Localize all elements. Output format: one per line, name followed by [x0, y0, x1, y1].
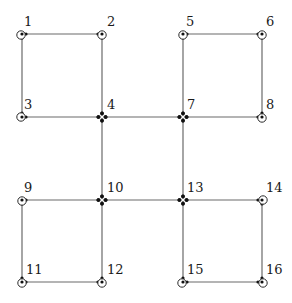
node-label-9: 9	[24, 180, 32, 195]
node-dot-icon	[260, 115, 263, 118]
junction-center-icon	[101, 116, 103, 118]
node-label-5: 5	[186, 14, 194, 29]
node-label-13: 13	[187, 180, 204, 195]
node-dot-icon	[20, 115, 23, 118]
junction-center-icon	[101, 199, 103, 201]
node-label-16: 16	[266, 262, 283, 277]
junction-marker-icon	[100, 119, 104, 123]
junction-marker-icon	[100, 202, 104, 206]
junction-marker-icon	[104, 115, 108, 119]
node-1[interactable]	[17, 31, 25, 39]
node-dot-icon	[260, 32, 263, 35]
node-5[interactable]	[179, 31, 187, 39]
node-label-3: 3	[24, 97, 32, 112]
junction-marker-icon	[100, 112, 104, 116]
node-dot-icon	[100, 32, 103, 35]
junction-marker-icon	[181, 195, 185, 199]
junction-center-icon	[182, 199, 184, 201]
node-label-1: 1	[24, 14, 32, 29]
node-label-10: 10	[107, 180, 124, 195]
edges-layer	[20, 32, 263, 283]
node-label-14: 14	[266, 180, 283, 195]
node-label-8: 8	[266, 97, 274, 112]
junction-marker-icon	[97, 198, 101, 202]
node-7[interactable]	[178, 112, 189, 123]
junction-marker-icon	[178, 115, 182, 119]
node-16[interactable]	[259, 279, 267, 287]
node-label-12: 12	[107, 262, 124, 277]
junction-marker-icon	[104, 198, 108, 202]
node-label-11: 11	[26, 262, 43, 277]
node-11[interactable]	[18, 279, 26, 287]
node-label-2: 2	[107, 14, 115, 29]
node-8[interactable]	[258, 114, 266, 122]
junction-marker-icon	[100, 195, 104, 199]
node-9[interactable]	[18, 197, 26, 205]
node-dot-icon	[20, 32, 23, 35]
node-6[interactable]	[258, 31, 266, 39]
labels-layer: 12345678910111213141516	[24, 14, 283, 277]
node-dot-icon	[260, 280, 263, 283]
node-14[interactable]	[259, 196, 267, 204]
junction-marker-icon	[181, 119, 185, 123]
node-label-15: 15	[187, 262, 204, 277]
node-13[interactable]	[178, 195, 189, 206]
nodes-layer	[17, 31, 267, 287]
node-dot-icon	[181, 280, 184, 283]
graph-diagram: 12345678910111213141516	[0, 0, 292, 303]
node-dot-icon	[20, 198, 23, 201]
node-4[interactable]	[97, 112, 108, 123]
node-12[interactable]	[98, 279, 106, 287]
junction-marker-icon	[185, 198, 189, 202]
junction-marker-icon	[181, 202, 185, 206]
junction-marker-icon	[97, 115, 101, 119]
node-label-6: 6	[266, 14, 274, 29]
node-3[interactable]	[17, 113, 25, 121]
junction-center-icon	[182, 116, 184, 118]
node-dot-icon	[260, 198, 263, 201]
node-dot-icon	[100, 280, 103, 283]
node-dot-icon	[20, 280, 23, 283]
node-label-7: 7	[187, 97, 195, 112]
junction-marker-icon	[178, 198, 182, 202]
node-2[interactable]	[98, 31, 106, 39]
node-10[interactable]	[97, 195, 108, 206]
node-15[interactable]	[178, 279, 186, 287]
node-dot-icon	[181, 32, 184, 35]
node-label-4: 4	[107, 97, 115, 112]
junction-marker-icon	[185, 115, 189, 119]
junction-marker-icon	[181, 112, 185, 116]
